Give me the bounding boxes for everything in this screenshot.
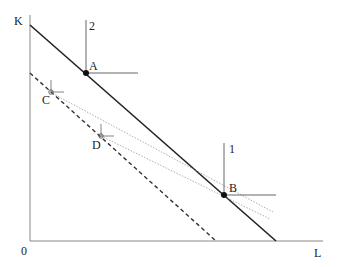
dotted-line-d	[101, 136, 270, 219]
point-b-label: B	[229, 181, 237, 195]
y-axis-label: K	[14, 14, 23, 28]
dashed-isocost-line	[30, 73, 216, 241]
dotted-line-c	[50, 92, 273, 212]
point-d-label: D	[92, 138, 101, 152]
point-b-marker	[221, 192, 227, 198]
isoquant-1-label: 1	[229, 142, 235, 156]
x-axis-label: L	[314, 246, 321, 260]
isoquant-2-label: 2	[89, 19, 95, 33]
solid-isocost-line	[30, 25, 276, 241]
production-diagram: K L 0 A 2 B 1 C D	[0, 0, 340, 267]
point-a-label: A	[89, 59, 98, 73]
point-c-label: C	[42, 93, 50, 107]
origin-label: 0	[21, 244, 27, 258]
